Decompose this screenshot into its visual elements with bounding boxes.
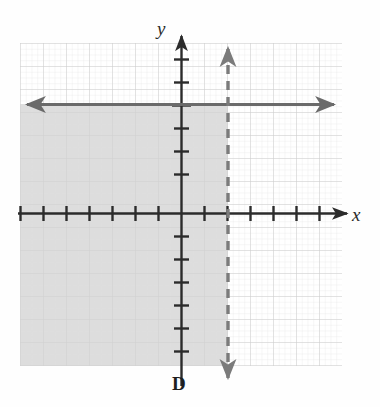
grid-overlay [20,104,228,366]
coordinate-plane [0,0,380,407]
x-axis-label: x [352,205,360,224]
graph-figure: y x D [0,0,380,407]
figure-choice-label: D [172,374,186,393]
y-axis-label: y [157,19,165,38]
